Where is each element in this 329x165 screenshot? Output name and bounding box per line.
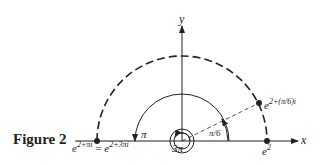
point-e2-label: e2 [262, 143, 271, 157]
angle-pi-over-6-label: π/6 [209, 128, 221, 138]
point-e2-pi6-i-label: e2+(π/6)i [264, 97, 296, 111]
x-axis-label: x [301, 133, 306, 148]
point-e2-pi6-i [256, 100, 262, 106]
figure-caption: Figure 2 [13, 131, 66, 148]
angle-3pi-label: 3π [172, 142, 183, 154]
point-e2-pi-i-label: e2+πi = e2+3πi [72, 140, 129, 154]
angle-pi-label: π [141, 128, 147, 140]
angle-3pi-arrow [175, 133, 190, 141]
y-axis-label: y [179, 12, 184, 27]
